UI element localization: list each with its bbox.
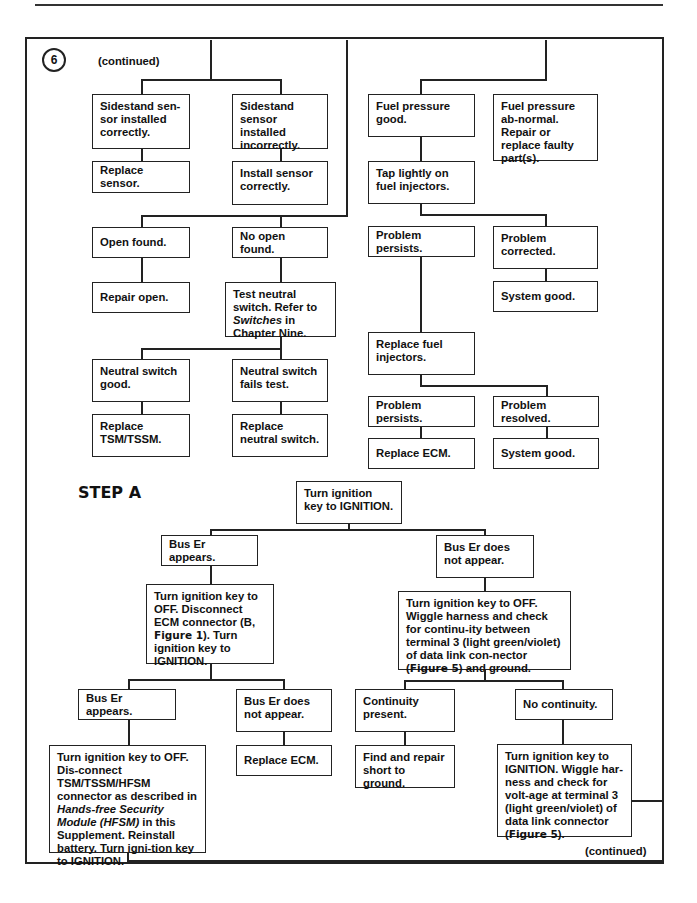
connector — [404, 680, 564, 682]
connector — [420, 385, 548, 387]
node-disconnect-tsm: Turn ignition key to OFF. Dis-connect TS… — [49, 745, 206, 853]
node-fuel-pressure-abnormal: Fuel pressure ab-normal. Repair or repla… — [493, 94, 598, 161]
node-tap-injectors: Tap lightly on fuel injectors. — [368, 161, 475, 204]
connector — [420, 214, 547, 216]
node-test-neutral-switch: Test neutral switch. Refer to Switches i… — [225, 282, 336, 337]
node-sidestand-correct: Sidestand sen-sor installed correctly. — [92, 94, 190, 149]
connector — [562, 720, 564, 746]
connector — [210, 40, 212, 80]
connector — [420, 257, 422, 333]
node-bus-er-not-appear-1: Bus Er does not appear. — [436, 535, 534, 578]
connector — [210, 566, 212, 585]
node-replace-injectors: Replace fuel injectors. — [368, 332, 475, 375]
node-continuity-present: Continuity present. — [355, 689, 455, 732]
node-open-found: Open found. — [92, 227, 190, 258]
node-problem-persists-1: Problem persists. — [368, 226, 475, 257]
node-turn-ignition: Turn ignition key to IGNITION. — [296, 481, 402, 524]
node-no-continuity: No continuity. — [515, 689, 613, 720]
node-problem-persists-2: Problem persists. — [368, 396, 475, 427]
node-wiggle-continuity: Turn ignition key to OFF. Wiggle harness… — [398, 591, 571, 670]
node-neutral-switch-good: Neutral switch good. — [92, 359, 190, 402]
connector — [127, 860, 664, 862]
node-system-good-1: System good. — [493, 281, 598, 312]
node-bus-er-not-appear-2: Bus Er does not appear. — [236, 689, 332, 732]
node-bus-er-appears-2: Bus Er appears. — [78, 689, 176, 720]
node-replace-tsm: Replace TSM/TSSM. — [92, 414, 190, 457]
continued-label-top: (continued) — [98, 55, 160, 67]
node-replace-ecm-2: Replace ECM. — [236, 745, 332, 776]
node-fuel-pressure-good: Fuel pressure good. — [368, 94, 475, 137]
continued-label-bottom: (continued) — [585, 845, 647, 857]
connector — [484, 578, 486, 592]
connector — [141, 348, 282, 350]
node-system-good-2: System good. — [493, 438, 599, 469]
page-header-rule — [35, 4, 663, 6]
figure-number-badge: 6 — [42, 48, 66, 72]
node-install-sensor: Install sensor correctly. — [232, 161, 328, 205]
node-problem-resolved: Problem resolved. — [493, 396, 599, 427]
connector — [128, 720, 130, 746]
node-check-voltage: Turn ignition key to IGNITION. Wiggle ha… — [497, 744, 632, 837]
connector — [141, 258, 143, 283]
node-disconnect-ecm: Turn ignition key to OFF. Disconnect ECM… — [146, 584, 274, 664]
connector — [141, 215, 348, 217]
connector — [210, 529, 486, 531]
connector — [141, 79, 143, 95]
connector — [141, 79, 281, 81]
node-neutral-switch-fails: Neutral switch fails test. — [232, 359, 328, 402]
node-replace-ecm-1: Replace ECM. — [368, 438, 475, 469]
connector — [346, 40, 348, 216]
node-problem-corrected: Problem corrected. — [493, 226, 598, 269]
connector — [632, 800, 664, 802]
connector — [545, 40, 547, 80]
connector — [404, 732, 406, 746]
node-replace-neutral-switch: Replace neutral switch. — [232, 414, 328, 457]
node-bus-er-appears-1: Bus Er appears. — [161, 535, 258, 566]
connector — [283, 732, 285, 746]
connector — [420, 137, 422, 162]
node-repair-open: Repair open. — [92, 282, 190, 313]
connector — [420, 79, 547, 81]
connector — [128, 679, 285, 681]
connector — [280, 258, 282, 283]
node-find-short: Find and repair short to ground. — [355, 745, 455, 788]
step-a-heading: STEP A — [78, 483, 141, 502]
node-sidestand-incorrect: Sidestand sensor installed incorrectly. — [232, 94, 328, 149]
connector — [210, 664, 212, 680]
connector — [420, 79, 422, 95]
node-replace-sensor: Replace sensor. — [92, 161, 190, 193]
node-no-open-found: No open found. — [232, 227, 328, 258]
connector — [280, 79, 282, 95]
